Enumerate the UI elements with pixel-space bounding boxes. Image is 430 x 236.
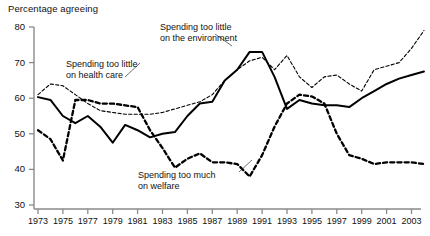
annotation-line: on the environment <box>160 33 237 44</box>
y-axis-tick-30: 30 <box>3 199 25 210</box>
y-axis-tick-50: 50 <box>3 128 25 139</box>
y-axis-tick-60: 60 <box>3 92 25 103</box>
x-axis-tick-2003: 2003 <box>395 216 429 226</box>
annotation-health: Spending too littleon health care <box>66 59 138 80</box>
annotation-line: Spending too much <box>138 170 216 181</box>
chart-root: Percentage agreeing 304050607080 1973197… <box>0 0 430 236</box>
y-axis-tick-80: 80 <box>3 21 25 32</box>
annotation-line: Spending too little <box>160 22 237 33</box>
annotation-line: on welfare <box>138 181 216 192</box>
annotation-line: Spending too little <box>66 59 138 70</box>
annotation-env: Spending too littleon the environment <box>160 22 237 43</box>
annotation-welfare: Spending too muchon welfare <box>138 170 216 191</box>
y-axis-tick-70: 70 <box>3 57 25 68</box>
y-axis-tick-40: 40 <box>3 163 25 174</box>
annotation-line: on health care <box>66 70 138 81</box>
series-line-2 <box>38 95 424 177</box>
